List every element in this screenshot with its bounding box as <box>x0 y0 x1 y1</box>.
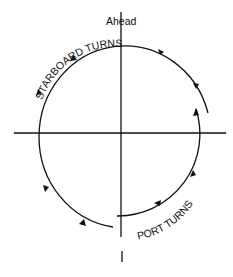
turning-circle-diagram: Ahead STARBOARD TURNS PORT TURNS <box>0 0 233 277</box>
port-turns-label: PORT TURNS <box>136 198 195 242</box>
starboard-turn-arc <box>39 46 208 227</box>
ahead-label: Ahead <box>106 15 137 27</box>
starboard-turns-label: STARBOARD TURNS <box>33 37 123 101</box>
direction-arrow-icon <box>36 49 199 226</box>
starboard-turns-text: STARBOARD TURNS <box>33 37 123 101</box>
port-turns-text: PORT TURNS <box>136 198 195 242</box>
